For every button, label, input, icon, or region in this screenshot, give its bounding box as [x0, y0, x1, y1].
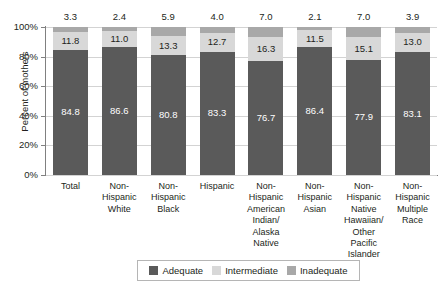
bar-segment-intermediate[interactable]: 12.7	[200, 33, 235, 52]
bar-column[interactable]: 83.113.0	[395, 27, 430, 175]
segment-value-label: 84.8	[53, 107, 88, 117]
bar-segment-intermediate[interactable]: 13.3	[151, 36, 186, 56]
bar-segment-intermediate[interactable]: 15.1	[346, 37, 381, 59]
bar-segment-inadequate[interactable]	[346, 27, 381, 37]
inadequate-value-label: 2.4	[97, 12, 142, 22]
inadequate-value-label: 5.9	[146, 12, 191, 22]
inadequate-value-label: 7.0	[243, 12, 288, 22]
x-category-label: Non- Hispanic Native Hawaiian/ Other Pac…	[338, 181, 390, 261]
legend-swatch-icon	[287, 266, 296, 275]
x-category-label: Non- Hispanic White	[93, 181, 145, 215]
bar-segment-adequate[interactable]: 86.6	[102, 47, 137, 175]
bar-segment-adequate[interactable]: 86.4	[297, 47, 332, 175]
x-category-label: Total	[44, 181, 96, 192]
legend-item[interactable]: Inadequate	[287, 266, 348, 276]
bar-segment-inadequate[interactable]	[102, 27, 137, 31]
x-category-label: Non- Hispanic Multiple Race	[387, 181, 439, 227]
y-tick-label: 100%	[0, 22, 38, 32]
y-tick-label: 80%	[0, 52, 38, 62]
bar-segment-intermediate[interactable]: 16.3	[248, 37, 283, 61]
bar-column[interactable]: 77.915.1	[346, 27, 381, 175]
y-tick-label: 40%	[0, 111, 38, 121]
legend-label: Intermediate	[225, 266, 278, 276]
bar-segment-intermediate[interactable]: 13.0	[395, 33, 430, 52]
segment-value-label: 11.5	[297, 34, 332, 44]
legend-label: Adequate	[162, 266, 203, 276]
inadequate-value-label: 4.0	[195, 12, 240, 22]
legend-label: Inadequate	[300, 266, 348, 276]
gridline	[46, 175, 437, 176]
segment-value-label: 77.9	[346, 112, 381, 122]
bar-column[interactable]: 86.611.0	[102, 27, 137, 175]
bar-segment-inadequate[interactable]	[248, 27, 283, 37]
segment-value-label: 76.7	[248, 113, 283, 123]
bar-column[interactable]: 86.411.5	[297, 27, 332, 175]
segment-value-label: 11.0	[102, 34, 137, 44]
stacked-bar-chart: Percent of mothers 100%80%60%40%20%0% 84…	[0, 0, 447, 288]
bar-segment-adequate[interactable]: 76.7	[248, 61, 283, 175]
bar-segment-inadequate[interactable]	[151, 27, 186, 36]
bar-column[interactable]: 80.813.3	[151, 27, 186, 175]
segment-value-label: 80.8	[151, 110, 186, 120]
plot-area: 84.811.886.611.080.813.383.312.776.716.3…	[46, 27, 437, 175]
y-tick-label: 20%	[0, 140, 38, 150]
legend-swatch-icon	[212, 266, 221, 275]
bar-segment-inadequate[interactable]	[395, 27, 430, 33]
legend-item[interactable]: Adequate	[149, 266, 203, 276]
inadequate-value-label: 3.3	[48, 12, 93, 22]
segment-value-label: 86.4	[297, 106, 332, 116]
segment-value-label: 83.1	[395, 109, 430, 119]
bar-segment-inadequate[interactable]	[53, 27, 88, 32]
bar-segment-adequate[interactable]: 84.8	[53, 50, 88, 176]
segment-value-label: 12.7	[200, 37, 235, 47]
bar-segment-intermediate[interactable]: 11.0	[102, 31, 137, 47]
segment-value-label: 13.3	[151, 41, 186, 51]
x-category-label: Non- Hispanic Black	[142, 181, 194, 215]
segment-value-label: 83.3	[200, 108, 235, 118]
bar-segment-inadequate[interactable]	[200, 27, 235, 33]
segment-value-label: 86.6	[102, 106, 137, 116]
bar-segment-intermediate[interactable]: 11.8	[53, 32, 88, 49]
legend-item[interactable]: Intermediate	[212, 266, 278, 276]
bar-column[interactable]: 83.312.7	[200, 27, 235, 175]
inadequate-value-label: 2.1	[292, 12, 337, 22]
segment-value-label: 13.0	[395, 37, 430, 47]
bar-segment-adequate[interactable]: 83.3	[200, 52, 235, 175]
bar-column[interactable]: 84.811.8	[53, 27, 88, 175]
x-category-label: Hispanic	[191, 181, 243, 192]
bar-segment-adequate[interactable]: 77.9	[346, 60, 381, 175]
bar-segment-intermediate[interactable]: 11.5	[297, 30, 332, 47]
legend-swatch-icon	[149, 266, 158, 275]
chart-legend: AdequateIntermediateInadequate	[137, 260, 360, 281]
y-axis-title: Percent of mothers	[19, 27, 30, 157]
segment-value-label: 16.3	[248, 44, 283, 54]
x-category-label: Non- Hispanic American Indian/ Alaska Na…	[240, 181, 292, 249]
bar-segment-adequate[interactable]: 80.8	[151, 55, 186, 175]
bar-column[interactable]: 76.716.3	[248, 27, 283, 175]
inadequate-value-label: 3.9	[390, 12, 435, 22]
x-category-label: Non- Hispanic Asian	[289, 181, 341, 215]
bar-segment-inadequate[interactable]	[297, 27, 332, 30]
inadequate-value-label: 7.0	[341, 12, 386, 22]
bar-segment-adequate[interactable]: 83.1	[395, 52, 430, 175]
segment-value-label: 11.8	[53, 36, 88, 46]
y-tick-label: 60%	[0, 81, 38, 91]
segment-value-label: 15.1	[346, 44, 381, 54]
y-tick-label: 0%	[0, 170, 38, 180]
